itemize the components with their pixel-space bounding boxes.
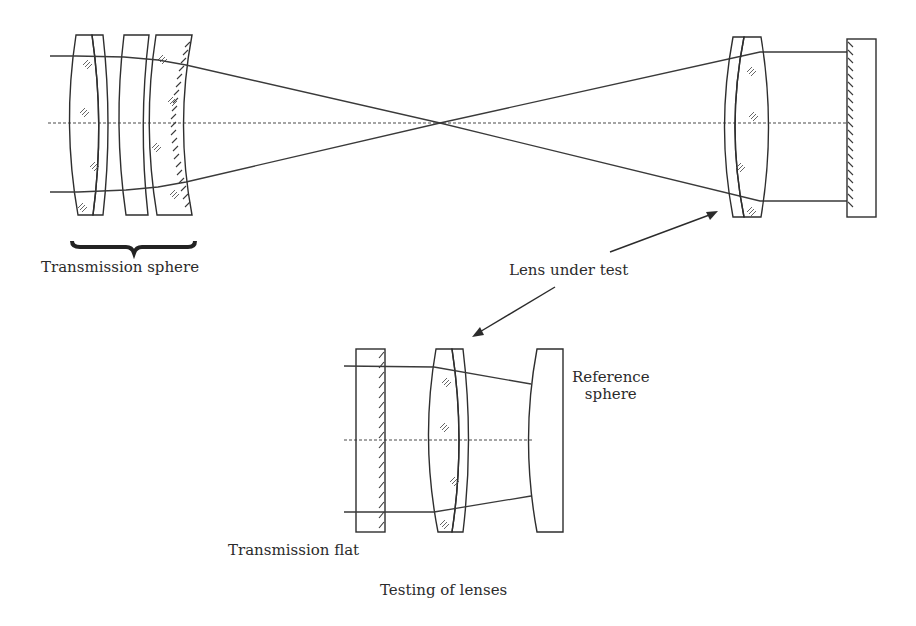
reference-sphere-label: Reference sphere bbox=[572, 369, 650, 404]
upper-flat-mirror bbox=[847, 39, 876, 217]
transmission-flat-label: Transmission flat bbox=[228, 542, 359, 559]
reference-sphere-label-line1: Reference bbox=[572, 369, 650, 386]
figure-caption: Testing of lenses bbox=[380, 582, 507, 599]
lower-ray-top bbox=[344, 366, 531, 384]
upper-ray-bottom bbox=[50, 123, 847, 201]
transmission-sphere-label: Transmission sphere bbox=[41, 259, 199, 276]
transmission-sphere-group bbox=[69, 35, 192, 215]
reference-sphere-label-line2: sphere bbox=[572, 386, 650, 403]
arrow-head-up-icon bbox=[706, 211, 718, 220]
arrow-head-down-icon bbox=[472, 327, 484, 337]
upper-ray-top bbox=[50, 52, 847, 123]
upper-lens-under-test bbox=[725, 37, 769, 217]
reference-sphere bbox=[529, 349, 564, 532]
lens-under-test-label: Lens under test bbox=[509, 262, 628, 279]
lower-lut-glass-markers bbox=[440, 378, 459, 529]
glass-markers bbox=[78, 55, 179, 212]
upper-setup bbox=[48, 35, 876, 337]
transmission-sphere-lens-1b bbox=[92, 35, 108, 215]
lower-setup bbox=[344, 349, 563, 532]
upper-lut-element bbox=[735, 37, 769, 217]
transmission-sphere-brace bbox=[72, 241, 195, 253]
transmission-sphere-lens-1 bbox=[69, 35, 98, 215]
lower-ray-bottom bbox=[344, 496, 531, 512]
upper-lut-meniscus bbox=[725, 37, 745, 217]
lens-testing-diagram bbox=[0, 0, 916, 626]
